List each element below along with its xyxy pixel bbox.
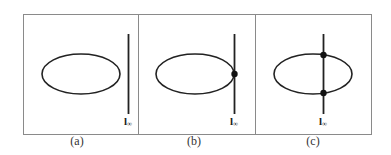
intersection-point bbox=[320, 52, 326, 58]
line-label-a: l∞ bbox=[124, 116, 132, 128]
line-label-b: l∞ bbox=[230, 116, 238, 128]
ellipse-conic bbox=[156, 54, 234, 94]
line-label-subscript: ∞ bbox=[233, 120, 238, 128]
conic-line-figure bbox=[0, 0, 391, 155]
panel-a bbox=[42, 34, 129, 114]
panel-b bbox=[156, 34, 238, 114]
line-label-subscript: ∞ bbox=[127, 120, 132, 128]
caption-c: (c) bbox=[293, 134, 333, 149]
ellipse-conic bbox=[42, 54, 120, 94]
caption-a: (a) bbox=[57, 134, 97, 149]
intersection-point bbox=[320, 90, 326, 96]
ellipse-conic bbox=[274, 54, 352, 94]
tangent-point bbox=[231, 71, 237, 77]
panel-c bbox=[274, 34, 352, 114]
line-label-c: l∞ bbox=[319, 116, 327, 128]
line-label-subscript: ∞ bbox=[322, 120, 327, 128]
caption-b: (b) bbox=[174, 134, 214, 149]
